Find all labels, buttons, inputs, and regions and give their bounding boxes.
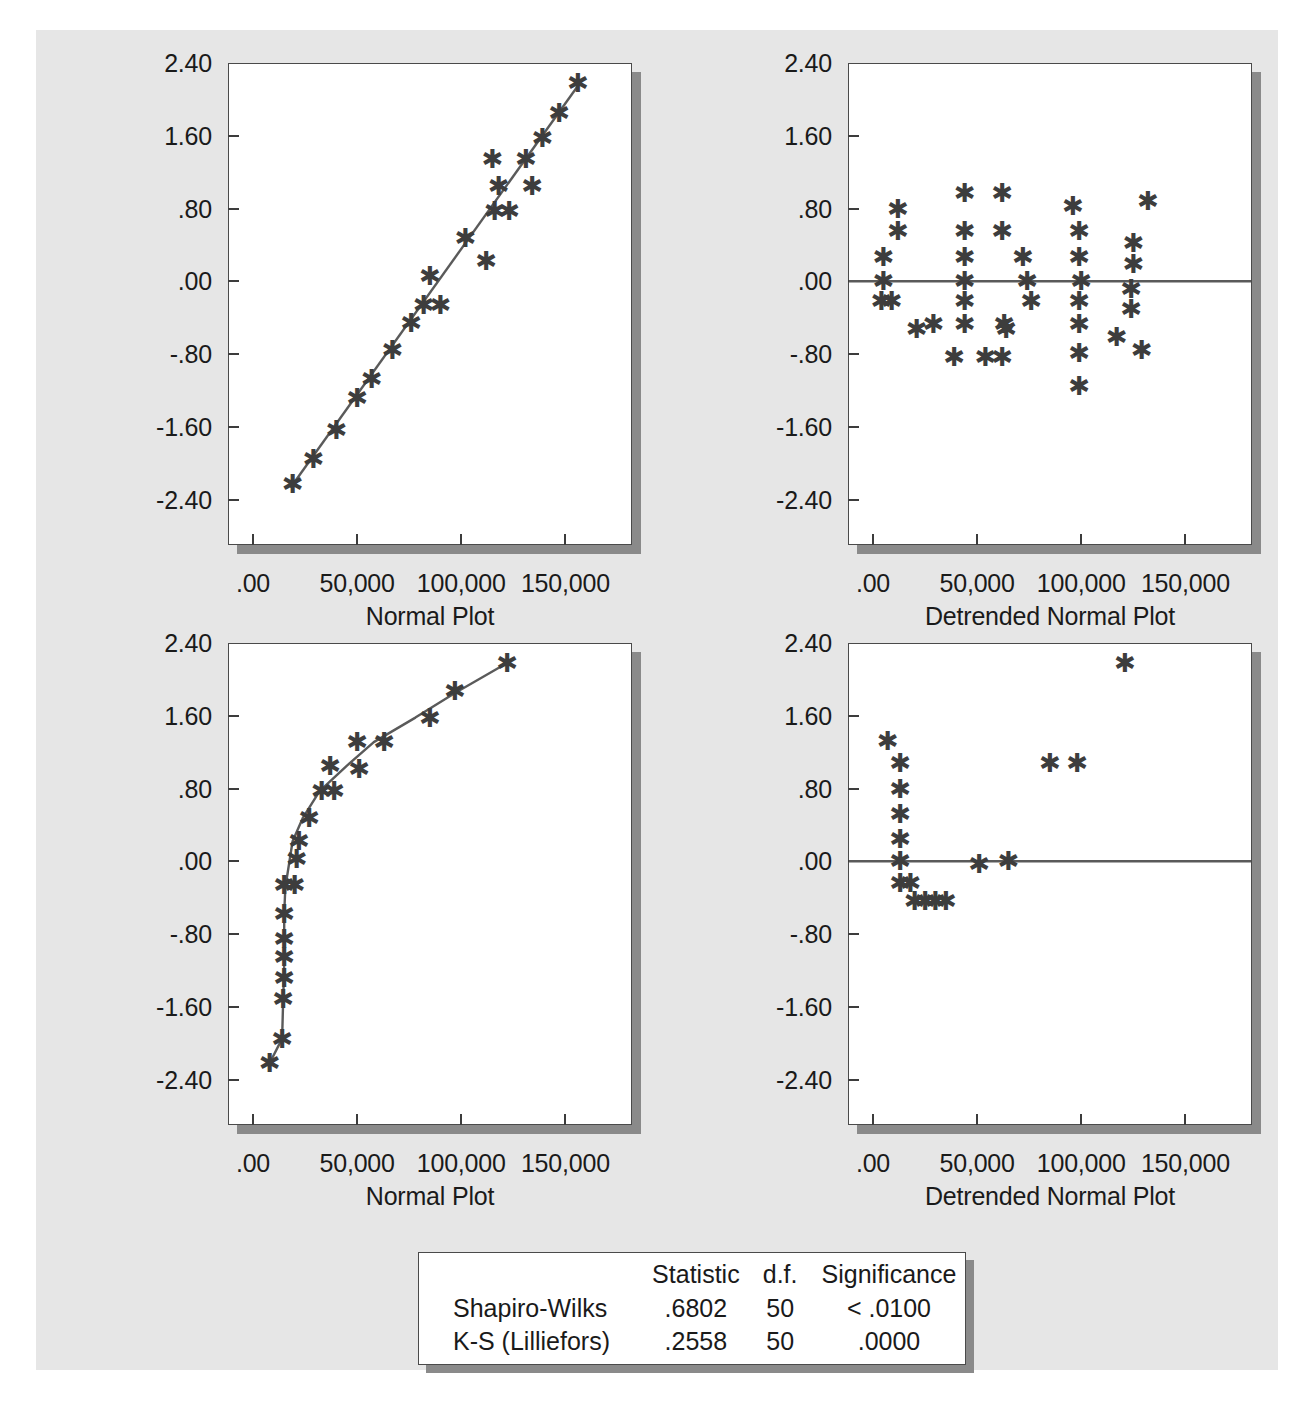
y-axis-tick-label: .00 <box>96 267 212 296</box>
x-axis-tick-label: 100,000 <box>417 1149 506 1178</box>
y-axis-tick-mark <box>848 1079 859 1081</box>
y-axis-tick-mark <box>848 860 859 862</box>
y-axis-tick-label: .80 <box>96 774 212 803</box>
x-axis-tick-mark <box>976 534 978 545</box>
y-axis-tick-label: .00 <box>716 847 832 876</box>
cell-statistic: .2558 <box>644 1325 747 1358</box>
y-axis-tick-label: 2.40 <box>96 629 212 658</box>
y-axis-tick-mark <box>228 426 239 428</box>
y-axis-tick-label: .80 <box>716 774 832 803</box>
header-blank <box>419 1253 644 1292</box>
plot-frame <box>848 63 1252 545</box>
chart-detrended-normal-plot-top: -2.40-1.60-.80.00.801.602.40.0050,000100… <box>656 30 1276 630</box>
x-axis-tick-label: .00 <box>856 1149 890 1178</box>
row-label-shapiro-wilks: Shapiro-Wilks <box>419 1292 644 1325</box>
y-axis-tick-mark <box>228 499 239 501</box>
y-axis-tick-label: -.80 <box>96 920 212 949</box>
y-axis-tick-label: -1.60 <box>96 412 212 441</box>
x-axis-tick-mark <box>356 1114 358 1125</box>
y-axis-tick-label: 2.40 <box>716 49 832 78</box>
x-axis-tick-mark <box>356 534 358 545</box>
y-axis-tick-label: 1.60 <box>96 121 212 150</box>
y-axis-tick-label: 1.60 <box>716 701 832 730</box>
y-axis-tick-mark <box>848 280 859 282</box>
y-axis-tick-label: 1.60 <box>96 701 212 730</box>
x-axis-tick-mark <box>564 1114 566 1125</box>
x-axis-tick-label: 100,000 <box>417 569 506 598</box>
y-axis-tick-mark <box>228 1006 239 1008</box>
table-header-row: Statistic d.f. Significance <box>419 1253 965 1292</box>
chart-detrended-normal-plot-bottom: -2.40-1.60-.80.00.801.602.40.0050,000100… <box>656 610 1276 1210</box>
y-axis-tick-label: -.80 <box>96 340 212 369</box>
x-axis-tick-label: 50,000 <box>939 569 1014 598</box>
x-axis-tick-mark <box>460 534 462 545</box>
y-axis-tick-label: -2.40 <box>716 1065 832 1094</box>
x-axis-tick-label: .00 <box>856 569 890 598</box>
y-axis-tick-label: .80 <box>716 194 832 223</box>
y-axis-tick-mark <box>848 135 859 137</box>
x-axis-tick-label: 100,000 <box>1037 569 1126 598</box>
y-axis-tick-label: 2.40 <box>96 49 212 78</box>
y-axis-tick-mark <box>848 353 859 355</box>
x-axis-tick-label: 50,000 <box>319 569 394 598</box>
header-df: d.f. <box>747 1253 813 1292</box>
normality-tests-table: Statistic d.f. Significance Shapiro-Wilk… <box>419 1253 965 1358</box>
row-label-ks-lilliefors: K-S (Lilliefors) <box>419 1325 644 1358</box>
x-axis-title: Detrended Normal Plot <box>925 1182 1175 1211</box>
x-axis-tick-label: 150,000 <box>521 1149 610 1178</box>
y-axis-tick-label: -.80 <box>716 340 832 369</box>
y-axis-tick-mark <box>228 860 239 862</box>
x-axis-tick-label: .00 <box>236 1149 270 1178</box>
y-axis-tick-label: -.80 <box>716 920 832 949</box>
y-axis-tick-label: .00 <box>716 267 832 296</box>
y-axis-tick-label: -2.40 <box>96 1065 212 1094</box>
y-axis-tick-label: -2.40 <box>96 485 212 514</box>
y-axis-tick-mark <box>228 208 239 210</box>
x-axis-title: Normal Plot <box>366 1182 494 1211</box>
cell-statistic: .6802 <box>644 1292 747 1325</box>
y-axis-tick-label: 2.40 <box>716 629 832 658</box>
chart-normal-plot-bottom: -2.40-1.60-.80.00.801.602.40.0050,000100… <box>36 610 656 1210</box>
x-axis-tick-mark <box>872 534 874 545</box>
y-axis-tick-mark <box>228 715 239 717</box>
x-axis-tick-mark <box>872 1114 874 1125</box>
x-axis-tick-mark <box>1080 1114 1082 1125</box>
x-axis-tick-label: 50,000 <box>319 1149 394 1178</box>
header-statistic: Statistic <box>644 1253 747 1292</box>
stats-table-box: Statistic d.f. Significance Shapiro-Wilk… <box>418 1252 966 1365</box>
x-axis-tick-mark <box>976 1114 978 1125</box>
y-axis-tick-label: 1.60 <box>716 121 832 150</box>
x-axis-tick-label: 150,000 <box>1141 1149 1230 1178</box>
cell-df: 50 <box>747 1292 813 1325</box>
cell-df: 50 <box>747 1325 813 1358</box>
y-axis-tick-mark <box>848 426 859 428</box>
y-axis-tick-label: -1.60 <box>716 992 832 1021</box>
cell-significance: < .0100 <box>813 1292 965 1325</box>
x-axis-tick-label: 150,000 <box>1141 569 1230 598</box>
y-axis-tick-mark <box>848 499 859 501</box>
x-axis-tick-label: .00 <box>236 569 270 598</box>
y-axis-tick-label: -1.60 <box>716 412 832 441</box>
x-axis-tick-label: 100,000 <box>1037 1149 1126 1178</box>
x-axis-tick-mark <box>564 534 566 545</box>
cell-significance: .0000 <box>813 1325 965 1358</box>
y-axis-tick-mark <box>848 208 859 210</box>
y-axis-tick-mark <box>228 135 239 137</box>
x-axis-tick-label: 150,000 <box>521 569 610 598</box>
y-axis-tick-mark <box>848 933 859 935</box>
y-axis-tick-mark <box>848 1006 859 1008</box>
chart-normal-plot-top: -2.40-1.60-.80.00.801.602.40.0050,000100… <box>36 30 656 630</box>
y-axis-tick-mark <box>228 1079 239 1081</box>
x-axis-tick-mark <box>252 534 254 545</box>
y-axis-tick-mark <box>848 715 859 717</box>
table-row: K-S (Lilliefors) .2558 50 .0000 <box>419 1325 965 1358</box>
y-axis-tick-label: -2.40 <box>716 485 832 514</box>
y-axis-tick-label: .00 <box>96 847 212 876</box>
table-row: Shapiro-Wilks .6802 50 < .0100 <box>419 1292 965 1325</box>
header-significance: Significance <box>813 1253 965 1292</box>
x-axis-tick-label: 50,000 <box>939 1149 1014 1178</box>
x-axis-tick-mark <box>1184 534 1186 545</box>
y-axis-tick-mark <box>228 353 239 355</box>
y-axis-tick-mark <box>228 280 239 282</box>
x-axis-tick-mark <box>252 1114 254 1125</box>
